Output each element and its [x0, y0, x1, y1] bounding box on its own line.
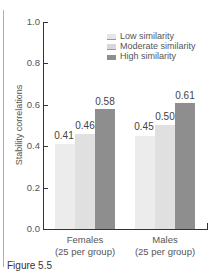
y-tick-label: 0.6 — [14, 99, 40, 110]
value-label: 0.45 — [132, 121, 156, 132]
bar-males-moderate — [155, 125, 175, 229]
value-label: 0.41 — [52, 130, 76, 141]
legend-swatch-icon — [107, 44, 116, 50]
y-axis-line — [43, 22, 44, 230]
y-axis-label: Stability correlations — [14, 80, 24, 170]
legend-item-high: High similarity — [107, 51, 196, 61]
category-line: Males — [125, 234, 205, 246]
value-label: 0.46 — [73, 120, 97, 131]
page-border — [3, 10, 4, 267]
value-label: 0.58 — [93, 96, 117, 107]
bar-males-high — [175, 103, 195, 229]
y-tick-label: 0.8 — [14, 57, 40, 68]
bar-females-high — [95, 109, 115, 229]
figure-caption: Figure 5.5 — [7, 260, 52, 271]
y-tick — [44, 63, 48, 64]
legend-swatch-icon — [107, 55, 116, 60]
legend: Low similarity Moderate similarity High … — [107, 31, 196, 61]
x-axis-line — [43, 229, 208, 230]
y-tick — [44, 22, 48, 23]
legend-label: Moderate similarity — [120, 41, 196, 51]
legend-label: High similarity — [120, 51, 176, 61]
category-line: (25 per group) — [125, 246, 205, 258]
category-label-females: Females (25 per group) — [45, 234, 125, 258]
value-label: 0.61 — [173, 90, 197, 101]
y-tick — [44, 188, 48, 189]
bar-males-low — [135, 136, 155, 229]
legend-label: Low similarity — [120, 31, 174, 41]
legend-item-low: Low similarity — [107, 31, 196, 41]
y-tick — [44, 105, 48, 106]
y-tick — [44, 146, 48, 147]
y-tick-label: 0.4 — [14, 140, 40, 151]
bar-females-low — [55, 144, 75, 229]
category-line: (25 per group) — [45, 246, 125, 258]
value-label: 0.50 — [153, 111, 177, 122]
legend-swatch-icon — [107, 34, 116, 40]
y-tick-label: 1.0 — [14, 16, 40, 27]
legend-item-moderate: Moderate similarity — [107, 41, 196, 51]
category-line: Females — [45, 234, 125, 246]
category-label-males: Males (25 per group) — [125, 234, 205, 258]
y-tick-label: 0.0 — [14, 223, 40, 234]
y-tick-label: 0.2 — [14, 182, 40, 193]
bar-females-moderate — [75, 134, 95, 229]
x-axis-end-tick — [207, 223, 208, 230]
